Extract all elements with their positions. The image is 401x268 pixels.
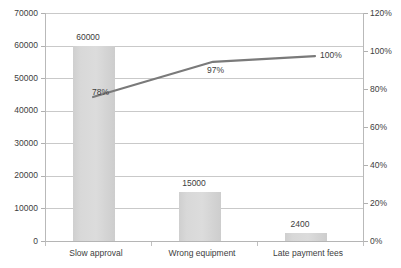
right-axis-tick — [364, 13, 368, 14]
pct-value-label-wrong-equipment: 97% — [207, 66, 224, 75]
left-axis-tick — [41, 46, 45, 47]
category-label-late-payment-fees: Late payment fees — [255, 248, 361, 258]
pct-value-label-late-payment-fees: 100% — [320, 51, 342, 60]
bar-wrong-equipment — [179, 192, 221, 241]
pareto-chart: 70000 60000 50000 40000 30000 20000 1000… — [0, 0, 401, 268]
category-tick — [363, 242, 364, 246]
right-axis-label-20: 20% — [370, 199, 387, 208]
left-axis-line — [45, 13, 46, 242]
gridline-baseline — [45, 241, 363, 242]
right-axis-tick — [364, 165, 368, 166]
right-axis-tick — [364, 127, 368, 128]
right-axis-label-100: 100% — [370, 47, 392, 56]
left-axis-label-70000: 70000 — [0, 9, 38, 18]
right-axis-tick — [364, 51, 368, 52]
left-axis-tick — [41, 208, 45, 209]
bar-slow-approval — [73, 46, 115, 241]
left-axis-label-50000: 50000 — [0, 74, 38, 83]
pct-value-label-slow-approval: 78% — [92, 88, 109, 97]
left-axis-label-60000: 60000 — [0, 41, 38, 50]
bar-late-payment-fees — [285, 233, 327, 241]
right-axis-label-120: 120% — [370, 9, 392, 18]
right-axis-label-80: 80% — [370, 85, 387, 94]
bar-value-label-late-payment-fees: 2400 — [270, 220, 330, 229]
category-tick — [257, 242, 258, 246]
right-axis-label-0: 0% — [370, 237, 382, 246]
right-axis-tick — [364, 203, 368, 204]
left-axis-tick — [41, 143, 45, 144]
left-axis-label-20000: 20000 — [0, 171, 38, 180]
left-axis-label-0: 0 — [0, 237, 38, 246]
left-axis-label-30000: 30000 — [0, 139, 38, 148]
left-axis-tick — [41, 176, 45, 177]
left-axis-label-40000: 40000 — [0, 106, 38, 115]
right-axis-label-60: 60% — [370, 123, 387, 132]
category-tick — [151, 242, 152, 246]
right-axis-label-40: 40% — [370, 161, 387, 170]
right-axis-tick — [364, 89, 368, 90]
right-axis-tick — [364, 241, 368, 242]
left-axis-tick — [41, 13, 45, 14]
left-axis-label-10000: 10000 — [0, 204, 38, 213]
left-axis-tick — [41, 111, 45, 112]
category-label-wrong-equipment: Wrong equipment — [149, 248, 255, 258]
bar-value-label-wrong-equipment: 15000 — [164, 179, 224, 188]
gridline — [45, 13, 363, 14]
left-axis-tick — [41, 78, 45, 79]
bar-value-label-slow-approval: 60000 — [58, 33, 118, 42]
category-tick — [45, 242, 46, 246]
category-label-slow-approval: Slow approval — [43, 248, 149, 258]
plot-area — [45, 13, 363, 241]
